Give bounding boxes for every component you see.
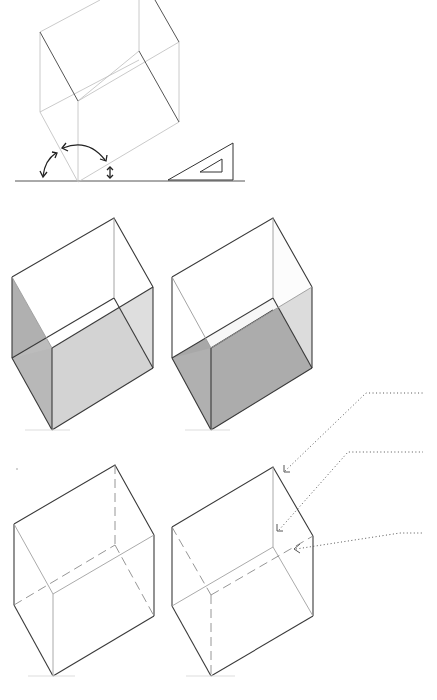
leader-line-3 xyxy=(296,533,423,549)
projection-lines xyxy=(40,0,179,182)
cube-edges xyxy=(40,0,179,122)
shaded-cube-a xyxy=(12,218,153,430)
left-angle-arrow xyxy=(43,153,56,176)
top-angle-arrow xyxy=(63,145,105,160)
leader-arrow-1 xyxy=(284,465,290,472)
leader-line-1 xyxy=(285,393,423,471)
drawing-canvas xyxy=(0,0,437,700)
set-square-icon xyxy=(168,143,233,180)
leader-callouts xyxy=(277,393,423,553)
angle-arrows xyxy=(40,143,113,178)
construction-cube xyxy=(15,0,245,182)
leader-arrow-2 xyxy=(277,524,283,531)
hidden-line-cube-b xyxy=(172,467,313,676)
hidden-line-cube-a xyxy=(14,465,154,676)
leader-line-2 xyxy=(279,452,423,530)
